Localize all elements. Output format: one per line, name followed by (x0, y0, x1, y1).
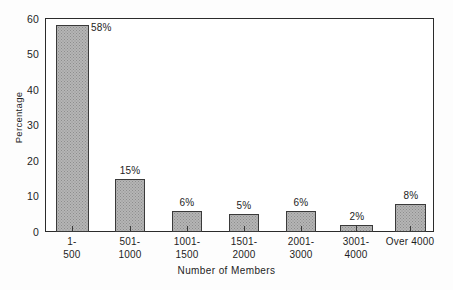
x-axis-tick-1 (72, 226, 73, 232)
x-axis-tick-2 (130, 226, 131, 232)
y-tick-label-50: 50 (13, 48, 39, 60)
x-label-over-4000-line1: Over 4000 (373, 236, 447, 249)
bar-value-2001-3000: 6% (281, 197, 321, 208)
bar-value-over-4000: 8% (391, 190, 431, 201)
x-label-over-4000: Over 4000 (373, 236, 447, 249)
y-tick-label-60: 60 (13, 13, 39, 25)
x-label-3001-4000-line2: 4000 (319, 249, 393, 262)
bar-value-501-1000: 15% (110, 165, 150, 176)
x-axis-title: Number of Members (0, 265, 453, 276)
bar-value-1501-2000: 5% (224, 200, 264, 211)
x-axis-tick-6 (356, 226, 357, 232)
x-axis-tick-3 (187, 226, 188, 232)
y-tick-label-40: 40 (13, 84, 39, 96)
y-tick-label-30: 30 (13, 119, 39, 131)
bar-501-1000[interactable] (115, 179, 145, 232)
x-axis-tick-7 (410, 226, 411, 232)
bar-chart-figure: Percentage 60 50 40 30 20 10 0 58% 15% 6… (0, 0, 453, 290)
x-axis-tick-4 (244, 226, 245, 232)
x-axis-tick-5 (301, 226, 302, 232)
bar-value-1001-1500: 6% (167, 197, 207, 208)
y-tick-label-20: 20 (13, 155, 39, 167)
bar-value-1-500: 58% (91, 22, 121, 33)
y-tick-label-10: 10 (13, 190, 39, 202)
bar-value-3001-4000: 2% (337, 211, 377, 222)
bar-1-500[interactable] (56, 25, 89, 232)
